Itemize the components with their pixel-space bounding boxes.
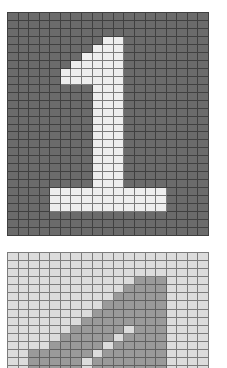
pixel-cell-off — [177, 156, 188, 164]
pixel-cell-off — [167, 172, 178, 180]
pixel-cell-off — [8, 358, 19, 366]
pixel-cell-on — [156, 204, 167, 212]
pixel-cell-off — [135, 212, 146, 220]
pixel-cell-off — [19, 318, 30, 326]
pixel-cell-off — [82, 125, 93, 133]
pixel-cell-off — [135, 125, 146, 133]
pixel-cell-off — [19, 358, 30, 366]
pixel-cell-on — [29, 350, 40, 358]
pixel-cell-off — [188, 293, 199, 301]
pixel-cell-on — [114, 318, 125, 326]
pixel-cell-off — [19, 326, 30, 334]
pixel-cell-off — [167, 293, 178, 301]
pixel-cell-off — [114, 21, 125, 29]
pixel-cell-off — [19, 148, 30, 156]
pixel-cell-off — [40, 220, 51, 228]
pixel-cell-on — [114, 93, 125, 101]
pixel-cell-off — [19, 188, 30, 196]
pixel-cell-off — [61, 156, 72, 164]
pixel-cell-off — [40, 253, 51, 261]
pixel-cell-off — [156, 180, 167, 188]
pixel-cell-off — [198, 172, 209, 180]
pixel-cell-off — [146, 77, 157, 85]
pixel-cell-off — [82, 29, 93, 37]
pixel-cell-off — [124, 53, 135, 61]
pixel-cell-off — [40, 180, 51, 188]
pixel-cell-off — [50, 101, 61, 109]
pixel-cell-on — [50, 358, 61, 366]
pixel-cell-off — [40, 204, 51, 212]
pixel-cell-off — [82, 228, 93, 236]
pixel-cell-off — [188, 301, 199, 309]
pixel-cell-off — [19, 310, 30, 318]
pixel-cell-on — [156, 293, 167, 301]
pixel-cell-off — [198, 140, 209, 148]
pixel-cell-off — [135, 37, 146, 45]
pixel-cell-off — [71, 301, 82, 309]
pixel-cell-off — [177, 172, 188, 180]
pixel-cell-on — [93, 326, 104, 334]
pixel-cell-on — [71, 342, 82, 350]
pixel-cell-off — [198, 196, 209, 204]
pixel-cell-on — [71, 188, 82, 196]
pixel-cell-off — [61, 293, 72, 301]
pixel-cell-on — [114, 61, 125, 69]
pixel-cell-off — [71, 21, 82, 29]
pixel-cell-on — [156, 358, 167, 366]
pixel-cell-on — [135, 293, 146, 301]
pixel-cell-on — [114, 69, 125, 77]
pixel-cell-on — [114, 293, 125, 301]
pixel-cell-off — [8, 148, 19, 156]
pixel-cell-off — [8, 45, 19, 53]
pixel-cell-off — [19, 13, 30, 21]
pixel-cell-off — [61, 180, 72, 188]
pixel-cell-off — [50, 334, 61, 342]
pixel-cell-on — [135, 285, 146, 293]
pixel-cell-off — [124, 326, 135, 334]
pixel-cell-off — [50, 228, 61, 236]
pixel-cell-on — [103, 180, 114, 188]
pixel-cell-off — [188, 164, 199, 172]
pixel-cell-off — [40, 156, 51, 164]
pixel-cell-off — [61, 125, 72, 133]
pixel-cell-on — [103, 69, 114, 77]
pixel-cell-off — [8, 228, 19, 236]
pixel-cell-off — [61, 318, 72, 326]
pixel-cell-off — [198, 117, 209, 125]
pixel-cell-on — [124, 188, 135, 196]
pixel-cell-off — [156, 61, 167, 69]
pixel-cell-off — [177, 212, 188, 220]
pixel-cell-off — [19, 334, 30, 342]
pixel-cell-off — [19, 53, 30, 61]
pixel-cell-on — [135, 358, 146, 366]
pixel-cell-off — [124, 85, 135, 93]
pixel-cell-off — [50, 77, 61, 85]
pixel-cell-off — [40, 261, 51, 269]
pixel-cell-off — [40, 29, 51, 37]
pixel-cell-off — [8, 350, 19, 358]
pixel-cell-off — [71, 93, 82, 101]
pixel-cell-on — [146, 301, 157, 309]
pixel-cell-off — [103, 220, 114, 228]
pixel-cell-off — [188, 125, 199, 133]
pixel-cell-off — [177, 277, 188, 285]
pixel-cell-on — [114, 85, 125, 93]
pixel-cell-on — [146, 358, 157, 366]
pixel-cell-off — [82, 101, 93, 109]
pixel-cell-on — [114, 326, 125, 334]
pixel-cell-off — [93, 269, 104, 277]
pixel-cell-off — [167, 261, 178, 269]
pixel-cell-off — [156, 101, 167, 109]
pixel-cell-off — [29, 269, 40, 277]
pixel-cell-off — [146, 85, 157, 93]
pixel-cell-off — [156, 13, 167, 21]
pixel-cell-off — [188, 85, 199, 93]
pixel-cell-on — [156, 350, 167, 358]
pixel-cell-off — [8, 318, 19, 326]
pixel-cell-off — [40, 125, 51, 133]
pixel-cell-off — [167, 132, 178, 140]
pixel-cell-on — [135, 326, 146, 334]
pixel-cell-off — [8, 212, 19, 220]
pixel-cell-off — [156, 53, 167, 61]
pixel-cell-on — [114, 53, 125, 61]
